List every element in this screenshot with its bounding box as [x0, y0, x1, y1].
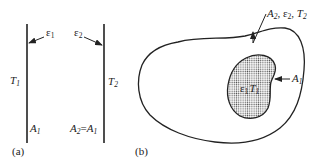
emissivity-2-label: ε2	[74, 26, 83, 40]
panel-a: ε1 ε2 T1 T2 A1 A2=A1 (a)	[10, 24, 118, 158]
outer-surface-arrow-icon	[253, 14, 266, 43]
panel-a-label: (a)	[12, 145, 25, 158]
emissivity-1-label: ε1	[46, 26, 55, 40]
temperature-2-label: T2	[108, 75, 118, 89]
diagram-canvas: ε1 ε2 T1 T2 A1 A2=A1 (a) A2, ε2, T2 A1 ε…	[0, 0, 331, 166]
temperature-1-label: T1	[10, 74, 20, 88]
panel-b-label: (b)	[135, 145, 148, 158]
panel-b: A2, ε2, T2 A1 ε1T1 (b)	[135, 7, 307, 158]
emissivity-1-arrow-icon	[29, 37, 44, 43]
outer-enclosure-shape	[138, 28, 304, 143]
area-1-label: A1	[29, 122, 40, 136]
inner-area-label: A1	[291, 72, 302, 86]
emissivity-2-arrow-icon	[84, 37, 102, 45]
area-2-label: A2=A1	[69, 122, 97, 136]
outer-surface-label: A2, ε2, T2	[266, 7, 307, 21]
